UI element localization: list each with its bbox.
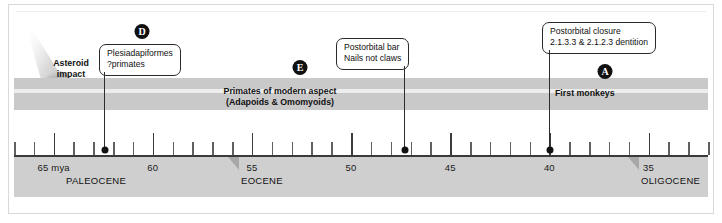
axis-tick-minor-66 [34,142,36,155]
epoch-label-paleocene: PALEOCENE [66,175,126,186]
epoch-marker-eocene [228,157,239,170]
axis-tick-minor-44 [470,142,472,155]
axis-tick-major-60 [153,133,155,155]
callout-postorbital-closure[interactable]: Postorbital closure 2.1.3.3 & 2.1.2.3 de… [542,22,656,54]
axis-tick-minor-58 [192,142,194,155]
axis-tick-minor-54 [272,142,274,155]
axis-tick-minor-52 [311,142,313,155]
axis-tick-minor-53 [292,142,294,155]
epoch-label-eocene: EOCENE [241,175,283,186]
leader-line-plesiadapiformes [104,72,105,150]
axis-tick-minor-57 [212,142,214,155]
badge-E: E [293,60,308,75]
axis-tick-minor-33 [688,142,690,155]
axis-tick-minor-59 [173,142,175,155]
axis-label-50: 50 [346,162,357,173]
callout-line2: Nails not claws [344,53,401,64]
axis-tick-minor-37 [609,142,611,155]
axis-tick-minor-36 [629,142,631,155]
axis-tick-minor-56 [232,142,234,155]
axis-tick-major-55 [252,133,254,155]
axis-tick-major-50 [351,133,353,155]
axis-tick-minor-42 [510,142,512,155]
epoch-marker-oligocene [628,157,639,170]
axis-tick-minor-64 [73,142,75,155]
badge-D: D [135,24,150,39]
axis-tick-minor-63 [93,142,95,155]
epoch-label-oligocene: OLIGOCENE [641,175,700,186]
callout-line1: Postorbital closure [550,26,648,37]
callout-line1: Postorbital bar [344,42,401,53]
axis-tick-minor-62 [113,142,115,155]
node-dot-postorbital-closure [546,147,553,154]
leader-line-postorbital-bar [404,66,405,150]
axis-tick-minor-43 [490,142,492,155]
axis-label-65: 65 mya [37,162,69,173]
leader-line-postorbital-closure [549,50,550,150]
axis-label-35: 35 [643,162,654,173]
axis-tick-minor-61 [133,142,135,155]
node-dot-postorbital-bar [401,147,408,154]
callout-plesiadapiformes[interactable]: Plesiadapiformes ?primates [99,44,181,76]
badge-A: A [598,64,613,79]
axis-label-55: 55 [246,162,257,173]
node-dot-plesiadapiformes [101,147,108,154]
axis-tick-minor-67 [14,142,16,155]
axis-tick-minor-41 [530,142,532,155]
axis-tick-major-35 [649,133,651,155]
callout-postorbital-bar[interactable]: Postorbital bar Nails not claws [336,38,409,70]
callout-line2: ?primates [107,59,173,70]
axis-tick-minor-38 [589,142,591,155]
axis-tick-minor-39 [569,142,571,155]
axis-label-45: 45 [445,162,456,173]
axis-tick-minor-49 [371,142,373,155]
axis-tick-minor-32 [708,142,710,155]
callout-line1: Plesiadapiformes [107,48,173,59]
axis-tick-minor-46 [430,142,432,155]
axis-tick-minor-48 [391,142,393,155]
axis-tick-major-45 [450,133,452,155]
axis-label-40: 40 [544,162,555,173]
axis-tick-minor-34 [668,142,670,155]
timeline-figure: Asteroid impact Primates of modern aspec… [0,0,722,223]
axis-tick-major-65 [54,133,56,155]
axis-tick-minor-47 [411,142,413,155]
axis-tick-minor-51 [331,142,333,155]
callout-line2: 2.1.3.3 & 2.1.2.3 dentition [550,37,648,48]
axis-label-60: 60 [147,162,158,173]
